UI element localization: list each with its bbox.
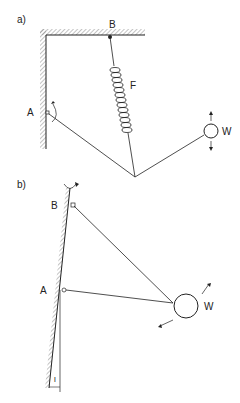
string-upper: [110, 37, 114, 66]
diagram-b: [45, 182, 211, 392]
panel-label-a: a): [17, 15, 26, 25]
string-a-to-w: [66, 290, 173, 303]
ceiling-hatch: [40, 29, 145, 35]
diagram-a: [40, 29, 218, 177]
label-weight-w-b: W: [204, 302, 213, 312]
spring-f: [110, 68, 132, 133]
label-weight-w-a: W: [222, 127, 231, 137]
weight-w-b: [174, 294, 198, 318]
wall-hatch: [40, 29, 46, 149]
swing-arrow-up-icon: [202, 284, 209, 294]
rotation-arrow-b: [64, 184, 76, 189]
bar-vertex-to-weight: [135, 135, 204, 177]
wall-b: [49, 188, 70, 388]
wall-b-hatch: [45, 188, 70, 388]
panel-label-b: b): [17, 180, 26, 190]
pivot-a-a: [46, 111, 49, 114]
label-offset: l: [54, 376, 56, 384]
label-point-a-b: A: [40, 286, 47, 296]
pivot-a-b: [62, 288, 66, 292]
label-point-a-a: A: [27, 108, 34, 118]
string-b-to-w: [74, 206, 173, 303]
string-lower: [128, 133, 135, 177]
mechanics-diagram: [0, 0, 240, 403]
label-point-b-b: B: [51, 201, 58, 211]
label-spring-f: F: [130, 81, 136, 91]
label-point-b-a: B: [109, 20, 116, 30]
weight-w-a: [204, 124, 218, 138]
swing-arrow-down-icon: [160, 320, 173, 326]
